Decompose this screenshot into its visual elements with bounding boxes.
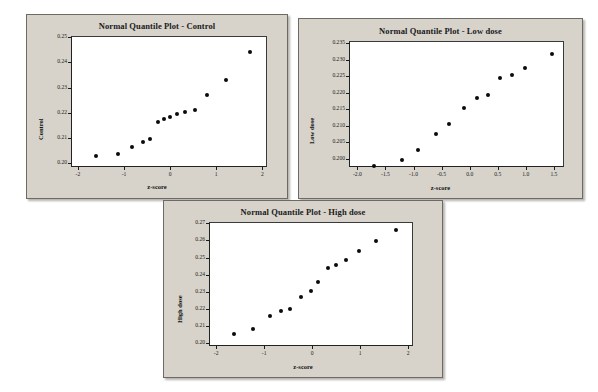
y-tick-mark: [206, 258, 209, 259]
y-tick-label: 0.205: [319, 138, 345, 144]
data-point: [232, 332, 236, 336]
x-tick-mark: [216, 346, 217, 349]
y-tick-mark: [206, 343, 209, 344]
data-point: [550, 52, 554, 56]
y-tick-label: 0.26: [183, 236, 205, 242]
data-point: [268, 314, 272, 318]
x-tick-mark: [262, 167, 263, 170]
y-tick-mark: [346, 93, 349, 94]
scatter-points-high-dose: [210, 223, 412, 345]
scatter-points-low-dose: [350, 42, 563, 166]
y-tick-mark: [346, 159, 349, 160]
y-tick-label: 0.200: [319, 155, 345, 161]
x-tick-label: 2: [247, 171, 277, 177]
chart-panel-control: Normal Quantile Plot - Control Control 0…: [26, 14, 288, 199]
quantile-plot-page: Normal Quantile Plot - Control Control 0…: [0, 0, 598, 392]
y-tick-label: 0.22: [183, 305, 205, 311]
data-point: [94, 154, 98, 158]
x-tick-mark: [312, 346, 313, 349]
x-tick-mark: [470, 167, 471, 170]
x-tick-label: 0: [297, 350, 327, 356]
y-tick-label: 0.22: [45, 109, 67, 115]
data-point: [326, 266, 330, 270]
y-tick-label: 0.235: [319, 39, 345, 45]
plot-area-low-dose: [349, 41, 564, 167]
y-tick-mark: [68, 62, 71, 63]
data-point: [299, 295, 303, 299]
y-tick-mark: [68, 163, 71, 164]
data-point: [447, 122, 451, 126]
x-tick-label: -1.5: [370, 171, 400, 177]
y-tick-mark: [346, 126, 349, 127]
data-point: [334, 263, 338, 267]
data-point: [251, 327, 255, 331]
x-tick-label: 1: [345, 350, 375, 356]
data-point: [183, 110, 187, 114]
x-tick-label: -2.0: [342, 171, 372, 177]
y-tick-label: 0.225: [319, 72, 345, 78]
y-tick-mark: [68, 37, 71, 38]
x-tick-mark: [554, 167, 555, 170]
data-point: [175, 112, 179, 116]
y-axis-label-control: Control: [37, 118, 44, 140]
data-point: [148, 137, 152, 141]
x-tick-mark: [526, 167, 527, 170]
data-point: [498, 76, 502, 80]
x-tick-mark: [124, 167, 125, 170]
chart-title-high-dose: Normal Quantile Plot - High dose: [164, 207, 442, 217]
data-point: [400, 158, 404, 162]
data-point: [156, 120, 160, 124]
data-point: [523, 66, 527, 70]
y-tick-mark: [206, 223, 209, 224]
data-point: [193, 108, 197, 112]
data-point: [316, 280, 320, 284]
data-point: [141, 140, 145, 144]
scatter-points-control: [72, 37, 266, 166]
y-tick-label: 0.21: [183, 322, 205, 328]
x-tick-label: 0: [155, 171, 185, 177]
x-tick-label: -1.0: [399, 171, 429, 177]
y-tick-label: 0.24: [183, 271, 205, 277]
y-tick-mark: [346, 43, 349, 44]
x-axis-label-high-dose: z-score: [164, 363, 442, 370]
y-axis-label-high-dose: High dose: [176, 295, 183, 323]
x-axis-label-control: z-score: [27, 183, 287, 190]
y-tick-mark: [346, 142, 349, 143]
x-tick-mark: [360, 346, 361, 349]
data-point: [394, 228, 398, 232]
data-point: [344, 258, 348, 262]
data-point: [510, 73, 514, 77]
data-point: [248, 50, 252, 54]
data-point: [130, 145, 134, 149]
x-tick-label: 1.0: [511, 171, 541, 177]
chart-title-low-dose: Normal Quantile Plot - Low dose: [299, 26, 582, 36]
x-tick-label: -0.5: [427, 171, 457, 177]
y-tick-label: 0.20: [183, 339, 205, 345]
x-tick-mark: [357, 167, 358, 170]
data-point: [168, 115, 172, 119]
chart-panel-high-dose: Normal Quantile Plot - High dose High do…: [163, 200, 443, 378]
x-tick-label: 0.5: [483, 171, 513, 177]
chart-title-control: Normal Quantile Plot - Control: [27, 21, 287, 31]
y-tick-label: 0.23: [45, 84, 67, 90]
data-point: [288, 307, 292, 311]
y-tick-label: 0.215: [319, 105, 345, 111]
y-tick-mark: [206, 326, 209, 327]
data-point: [279, 309, 283, 313]
y-tick-mark: [206, 309, 209, 310]
data-point: [462, 106, 466, 110]
y-tick-mark: [346, 60, 349, 61]
data-point: [434, 132, 438, 136]
x-tick-mark: [408, 346, 409, 349]
y-tick-label: 0.25: [183, 254, 205, 260]
x-tick-label: 2: [393, 350, 423, 356]
data-point: [162, 117, 166, 121]
x-tick-label: 1.5: [539, 171, 569, 177]
x-tick-mark: [442, 167, 443, 170]
y-tick-mark: [68, 113, 71, 114]
y-tick-mark: [206, 240, 209, 241]
y-tick-label: 0.25: [45, 33, 67, 39]
y-tick-mark: [206, 275, 209, 276]
x-tick-mark: [170, 167, 171, 170]
y-tick-mark: [206, 292, 209, 293]
